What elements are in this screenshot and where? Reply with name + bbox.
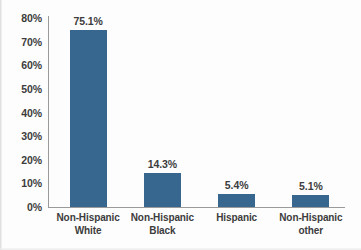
bar-group[interactable]: 5.4%: [218, 18, 255, 207]
bar-group[interactable]: 5.1%: [292, 18, 329, 207]
y-axis-tick-label: 10%: [0, 177, 42, 189]
x-axis-category-label-line: Non-Hispanic: [125, 212, 199, 225]
bar[interactable]: [292, 195, 329, 207]
y-axis-tick-label: 0%: [0, 201, 42, 213]
x-axis-category-label-line: Black: [125, 225, 199, 238]
bar-group[interactable]: 14.3%: [144, 18, 181, 207]
bar-value-label: 75.1%: [73, 15, 102, 27]
y-axis-tick-label: 50%: [0, 83, 42, 95]
bar[interactable]: [70, 30, 107, 207]
bar[interactable]: [218, 194, 255, 207]
x-axis-category-label: Hispanic: [200, 212, 274, 225]
y-axis-tick-label: 70%: [0, 36, 42, 48]
bar-group[interactable]: 75.1%: [70, 18, 107, 207]
bar-value-label: 5.1%: [299, 180, 323, 192]
x-axis-category-label-line: White: [51, 225, 125, 238]
plot-area: 75.1%14.3%5.4%5.1%: [48, 18, 345, 207]
x-axis-baseline: [48, 207, 345, 208]
x-axis-category-label-line: Hispanic: [200, 212, 274, 225]
bar-value-label: 14.3%: [148, 158, 177, 170]
bar[interactable]: [144, 173, 181, 207]
y-axis-tick-label: 60%: [0, 59, 42, 71]
x-axis-category-label: Non-HispanicBlack: [125, 212, 199, 237]
bar-value-label: 5.4%: [225, 179, 249, 191]
y-axis-tick-label: 80%: [0, 12, 42, 24]
x-axis-category-label-line: Non-Hispanic: [51, 212, 125, 225]
y-axis-tick-label: 30%: [0, 130, 42, 142]
bar-chart: 0%10%20%30%40%50%60%70%80% 75.1%14.3%5.4…: [0, 0, 361, 250]
y-axis-tick-label: 40%: [0, 107, 42, 119]
x-axis-category-label-line: Non-Hispanic: [274, 212, 348, 225]
x-axis-category-label-line: other: [274, 225, 348, 238]
y-axis-tick-labels: 0%10%20%30%40%50%60%70%80%: [0, 0, 42, 250]
x-axis-category-labels: Non-HispanicWhiteNon-HispanicBlackHispan…: [48, 212, 345, 250]
x-axis-category-label: Non-HispanicWhite: [51, 212, 125, 237]
y-axis-tick-label: 20%: [0, 154, 42, 166]
x-axis-category-label: Non-Hispanicother: [274, 212, 348, 237]
